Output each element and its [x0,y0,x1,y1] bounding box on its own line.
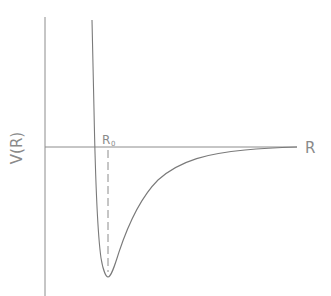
potential-curve [92,20,297,277]
y-axis-label: V(R) [8,132,26,164]
x-axis-label: R [305,139,315,157]
equilibrium-label: R [102,133,110,147]
equilibrium-subscript: 0 [111,140,115,148]
diagram-svg: V(R) R R 0 [0,0,331,296]
potential-diagram: V(R) R R 0 [0,0,331,296]
